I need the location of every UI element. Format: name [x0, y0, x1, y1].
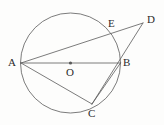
center-point-O [69, 61, 72, 64]
point-label-A: A [8, 57, 16, 68]
point-label-E: E [108, 18, 115, 29]
geometry-canvas [0, 0, 164, 125]
point-label-D: D [147, 14, 155, 25]
point-label-C: C [88, 108, 95, 119]
point-label-B: B [123, 57, 130, 68]
point-label-O: O [66, 67, 74, 78]
geometry-figure: A B C D E O [0, 0, 164, 125]
segment-AC-chord [21, 63, 92, 104]
segment-CD [92, 23, 143, 104]
